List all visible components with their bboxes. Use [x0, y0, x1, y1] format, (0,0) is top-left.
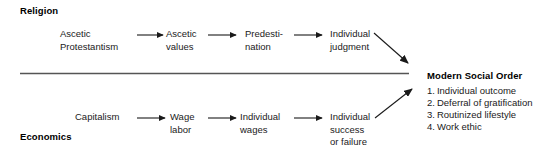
outcome-item-number: 2.: [427, 97, 435, 108]
node-individual-success-or-failure: Individual success or failure: [330, 111, 370, 149]
weber-protestant-ethic-diagram: Religion Ascetic Protestantism Ascetic v…: [0, 0, 544, 161]
outcome-item-text: Routinized lifestyle: [437, 109, 516, 120]
node-line: Wage: [170, 111, 194, 124]
node-line: values: [166, 41, 197, 54]
node-wage-labor: Wage labor: [170, 111, 194, 136]
outcome-item-text: Deferral of gratification: [437, 97, 533, 108]
outcome-item-text: Individual outcome: [437, 85, 516, 96]
outcome-list-item: 1.Individual outcome: [427, 85, 533, 97]
node-line: Individual: [240, 111, 280, 124]
arrow-judgment-to-modern-social-order: [374, 33, 408, 63]
outcome-list-item: 3.Routinized lifestyle: [427, 109, 533, 121]
node-predestination: Predesti- nation: [245, 28, 283, 53]
node-line: Individual: [330, 111, 370, 124]
node-line: Protestantism: [60, 41, 118, 54]
node-line: Ascetic: [60, 28, 118, 41]
node-line: success: [330, 124, 370, 137]
outcome-list-item: 2.Deferral of gratification: [427, 97, 533, 109]
outcome-list: 1.Individual outcome 2.Deferral of grati…: [427, 85, 533, 133]
outcome-item-number: 1.: [427, 85, 435, 96]
outcome-item-text: Work ethic: [437, 121, 482, 132]
node-line: Ascetic: [166, 28, 197, 41]
node-ascetic-values: Ascetic values: [166, 28, 197, 53]
section-label-religion: Religion: [20, 5, 58, 16]
node-line: wages: [240, 124, 280, 137]
node-line: Capitalism: [75, 111, 119, 124]
node-line: judgment: [330, 41, 370, 54]
outcome-title-modern-social-order: Modern Social Order: [427, 70, 522, 81]
section-label-economics: Economics: [20, 131, 72, 142]
node-line: labor: [170, 124, 194, 137]
outcome-list-item: 4.Work ethic: [427, 121, 533, 133]
node-line: Predesti-: [245, 28, 283, 41]
node-individual-wages: Individual wages: [240, 111, 280, 136]
node-line: nation: [245, 41, 283, 54]
node-line: Individual: [330, 28, 370, 41]
outcome-item-number: 3.: [427, 109, 435, 120]
node-individual-judgment: Individual judgment: [330, 28, 370, 53]
node-line: or failure: [330, 136, 370, 149]
node-ascetic-protestantism: Ascetic Protestantism: [60, 28, 118, 53]
arrow-success-to-outcomes: [375, 89, 412, 118]
node-capitalism: Capitalism: [75, 111, 119, 124]
outcome-item-number: 4.: [427, 121, 435, 132]
